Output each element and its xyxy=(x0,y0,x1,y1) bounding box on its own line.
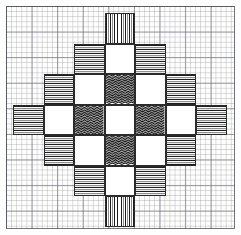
horizontal-hatch-fill xyxy=(75,167,104,196)
horizontal-hatch-fill xyxy=(167,136,196,165)
pattern-cell-r2-c4 xyxy=(105,44,136,75)
horizontal-hatch-fill xyxy=(136,167,165,196)
pattern-cell-r5-c2 xyxy=(44,135,75,166)
pattern-cell-r4-c2 xyxy=(44,105,75,136)
pattern-cell-r5-c5 xyxy=(135,135,166,166)
empty-block-fill xyxy=(136,75,165,104)
wavy-hatch-fill xyxy=(136,106,165,135)
pattern-cell-r5-c6 xyxy=(166,135,197,166)
pattern-cell-r3-c4 xyxy=(105,74,136,105)
pattern-cell-r5-c4 xyxy=(105,135,136,166)
pattern-cell-r6-c5 xyxy=(135,166,166,197)
pattern-cell-r5-c3 xyxy=(74,135,105,166)
pattern-cell-r6-c4 xyxy=(105,166,136,197)
pattern-cell-r4-c7 xyxy=(196,105,227,136)
horizontal-hatch-fill xyxy=(14,106,43,135)
weaving-motif xyxy=(0,0,241,235)
pattern-cell-r4-c6 xyxy=(166,105,197,136)
horizontal-hatch-fill xyxy=(167,75,196,104)
empty-block-fill xyxy=(75,75,104,104)
pattern-canvas xyxy=(0,0,241,235)
horizontal-hatch-fill xyxy=(45,136,74,165)
pattern-cell-r4-c5 xyxy=(135,105,166,136)
pattern-cell-r4-c3 xyxy=(74,105,105,136)
pattern-cell-r3-c2 xyxy=(44,74,75,105)
pattern-cell-r4-c1 xyxy=(13,105,44,136)
empty-block-fill xyxy=(106,45,135,74)
vertical-hatch-fill xyxy=(106,14,135,43)
horizontal-hatch-fill xyxy=(75,45,104,74)
pattern-cell-r3-c6 xyxy=(166,74,197,105)
wavy-hatch-fill xyxy=(75,106,104,135)
pattern-cell-r2-c3 xyxy=(74,44,105,75)
pattern-cell-r3-c3 xyxy=(74,74,105,105)
wavy-hatch-fill xyxy=(106,136,135,165)
horizontal-hatch-fill xyxy=(45,75,74,104)
pattern-cell-r2-c5 xyxy=(135,44,166,75)
empty-block-fill xyxy=(167,106,196,135)
empty-block-fill xyxy=(45,106,74,135)
wavy-hatch-fill xyxy=(106,75,135,104)
horizontal-hatch-fill xyxy=(136,45,165,74)
empty-block-fill xyxy=(106,106,135,135)
pattern-cell-r6-c3 xyxy=(74,166,105,197)
pattern-cell-r4-c4 xyxy=(105,105,136,136)
empty-block-fill xyxy=(106,167,135,196)
pattern-cell-r1-c4 xyxy=(105,13,136,44)
vertical-hatch-fill xyxy=(106,197,135,226)
pattern-cell-r3-c5 xyxy=(135,74,166,105)
horizontal-hatch-fill xyxy=(197,106,226,135)
empty-block-fill xyxy=(75,136,104,165)
empty-block-fill xyxy=(136,136,165,165)
pattern-cell-r7-c4 xyxy=(105,196,136,227)
